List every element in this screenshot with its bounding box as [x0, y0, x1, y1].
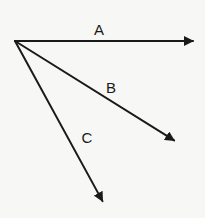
vector-label-a: A — [94, 22, 104, 37]
vector-arrow-c — [15, 41, 103, 201]
vector-diagram: A B C — [0, 0, 205, 218]
vector-label-c: C — [82, 130, 93, 145]
vector-arrow-b — [15, 41, 174, 140]
vector-label-b: B — [106, 80, 116, 95]
